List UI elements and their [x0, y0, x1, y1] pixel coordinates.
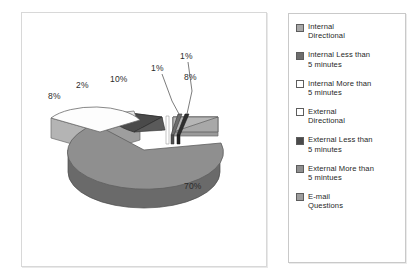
legend-swatch-icon — [296, 137, 304, 145]
legend-swatch-icon — [296, 193, 304, 201]
legend-item-internal-directional[interactable]: Internal Directional — [296, 22, 400, 41]
legend-swatch-icon — [296, 165, 304, 173]
legend-item-email-questions[interactable]: E-mail Questions — [296, 192, 400, 211]
data-label-1-a: 1% — [151, 63, 164, 73]
legend-label-line1: Internal — [308, 22, 334, 31]
data-label-8-right: 8% — [184, 72, 197, 82]
legend-label-line2: Directional — [308, 31, 345, 40]
data-label-10: 10% — [110, 74, 128, 84]
legend-item-external-less-5[interactable]: External Less than 5 minutes — [296, 135, 400, 154]
pie-plot-area: 70% 10% 2% 8% 8% 1% 1% — [22, 13, 266, 266]
legend-item-label: External Directional — [308, 107, 345, 126]
leader-line-1-b — [187, 62, 192, 114]
legend-item-label: E-mail Questions — [308, 192, 343, 211]
data-label-2: 2% — [76, 80, 89, 90]
legend-item-external-directional[interactable]: External Directional — [296, 107, 400, 126]
legend-label-line1: External — [308, 107, 337, 116]
slice-side-1-b — [177, 135, 180, 144]
legend-item-external-more-5[interactable]: External More than 5 mintues — [296, 164, 400, 183]
legend-label-line2: 5 minutes — [308, 60, 342, 69]
legend-label-line1: Internal More than — [308, 79, 371, 88]
legend-label-line2: Directional — [308, 116, 345, 125]
legend-item-label: Internal More than 5 minutes — [308, 79, 371, 98]
legend-label-line1: External Less than — [308, 135, 373, 144]
legend-swatch-icon — [296, 108, 304, 116]
data-label-70: 70% — [184, 181, 202, 191]
legend-swatch-icon — [296, 80, 304, 88]
legend-swatch-icon — [296, 24, 304, 32]
legend-label-line2: 5 minutes — [308, 88, 342, 97]
legend-item-label: External Less than 5 minutes — [308, 135, 373, 154]
legend-label-line2: 5 minutes — [308, 145, 342, 154]
chart-frame: 70% 10% 2% 8% 8% 1% 1% — [21, 12, 267, 267]
legend-item-internal-less-5[interactable]: Internal Less than 5 minutes — [296, 50, 400, 69]
legend-label-line2: Questions — [308, 201, 343, 210]
data-label-1-b: 1% — [180, 51, 193, 61]
legend-swatch-icon — [296, 52, 304, 60]
leader-line-1-a — [162, 74, 179, 114]
legend-item-internal-more-5[interactable]: Internal More than 5 minutes — [296, 79, 400, 98]
slice-side-1-a — [171, 135, 174, 144]
slice-gap-sliver — [166, 116, 169, 144]
legend-item-label: Internal Directional — [308, 22, 345, 41]
pie-chart-graphic — [22, 13, 266, 266]
legend-item-label: Internal Less than 5 minutes — [308, 50, 370, 69]
chart-legend: Internal Directional Internal Less than … — [288, 13, 406, 263]
legend-label-line2: 5 mintues — [308, 173, 342, 182]
chart-screenshot: 70% 10% 2% 8% 8% 1% 1% Internal Directio… — [0, 0, 416, 278]
data-label-8-left: 8% — [48, 91, 61, 101]
legend-label-line1: External More than — [308, 164, 374, 173]
legend-label-line1: E-mail — [308, 192, 330, 201]
legend-item-label: External More than 5 mintues — [308, 164, 374, 183]
legend-label-line1: Internal Less than — [308, 50, 370, 59]
